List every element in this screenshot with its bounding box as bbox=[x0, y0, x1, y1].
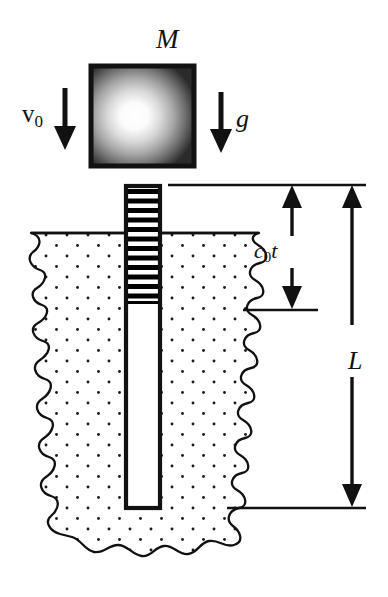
c0t-dimension bbox=[282, 185, 302, 309]
mass-block bbox=[91, 66, 194, 166]
label-initial-velocity: v0 bbox=[22, 101, 43, 130]
label-c-symbol: c bbox=[254, 238, 264, 263]
label-gravity-g: g bbox=[236, 106, 249, 132]
rod bbox=[126, 186, 160, 508]
gravity-arrow bbox=[210, 92, 232, 153]
velocity-arrow bbox=[54, 88, 76, 150]
diagram-canvas bbox=[0, 0, 388, 597]
physics-diagram: M v0 g c0t L bbox=[0, 0, 388, 597]
label-t-symbol: t bbox=[271, 238, 277, 263]
label-rod-length-L: L bbox=[348, 348, 362, 374]
label-v-symbol: v bbox=[22, 100, 35, 127]
label-v-subscript: 0 bbox=[35, 112, 44, 131]
label-mass-M: M bbox=[156, 26, 179, 53]
label-c0t: c0t bbox=[254, 240, 277, 265]
